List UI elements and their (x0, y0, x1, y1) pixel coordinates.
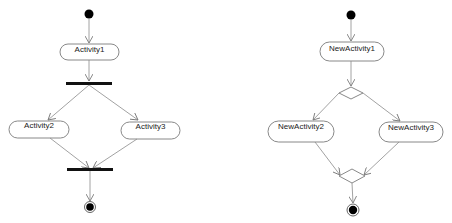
decision-node[interactable] (339, 87, 363, 99)
fork-bar[interactable] (66, 82, 112, 85)
merge-node[interactable] (339, 169, 365, 183)
activity3-label: Activity3 (136, 122, 166, 131)
activity1-node[interactable]: Activity1 (60, 44, 119, 60)
fork-join-diagram: Activity1 Activity2 Activity3 (9, 10, 180, 213)
newactivity2-node[interactable]: NewActivity2 (268, 121, 334, 142)
edge-activity2-join[interactable] (50, 138, 89, 168)
newactivity3-node[interactable]: NewActivity3 (379, 122, 443, 142)
newactivity1-node[interactable]: NewActivity1 (320, 42, 384, 61)
edge-decision-newactivity2[interactable] (313, 93, 339, 120)
edge-newactivity3-merge[interactable] (364, 142, 399, 175)
join-bar[interactable] (67, 168, 113, 171)
activity3-node[interactable]: Activity3 (121, 122, 180, 139)
activity2-node[interactable]: Activity2 (9, 121, 69, 138)
edge-fork-activity3[interactable] (89, 85, 138, 120)
activity2-label: Activity2 (24, 121, 54, 130)
final-node[interactable] (85, 202, 96, 213)
edge-merge-final[interactable] (352, 183, 353, 203)
edge-fork-activity2[interactable] (48, 85, 89, 120)
initial-node[interactable] (85, 10, 94, 19)
edge-decision-newactivity3[interactable] (363, 93, 400, 121)
newactivity2-label: NewActivity2 (278, 122, 324, 131)
final-node-2[interactable] (347, 204, 359, 216)
edge-activity3-join[interactable] (93, 139, 137, 168)
initial-node-2[interactable] (347, 11, 356, 20)
activity1-label: Activity1 (75, 45, 105, 54)
decision-merge-diagram: NewActivity1 NewActivity2 NewActivity3 (268, 11, 443, 217)
newactivity3-label: NewActivity3 (388, 123, 434, 132)
newactivity1-label: NewActivity1 (329, 44, 375, 53)
activity-diagrams-canvas: Activity1 Activity2 Activity3 NewActivit… (0, 0, 452, 223)
edge-newactivity2-merge[interactable] (315, 142, 340, 175)
